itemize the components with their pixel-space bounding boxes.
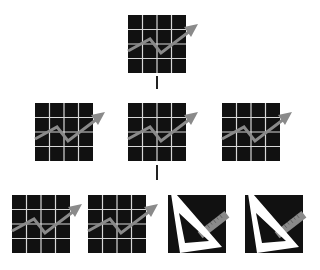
set-square-ruler-icon (168, 195, 226, 253)
node-root (128, 15, 186, 73)
growth-chart-icon (128, 15, 186, 73)
growth-chart-icon (35, 103, 93, 161)
node-leaf-1 (12, 195, 70, 253)
growth-chart-icon (88, 195, 146, 253)
connector-center-to-leaves (156, 165, 158, 180)
node-leaf-2 (88, 195, 146, 253)
growth-chart-icon (222, 103, 280, 161)
node-child-center (128, 103, 186, 161)
node-child-left (35, 103, 93, 161)
node-child-right (222, 103, 280, 161)
node-leaf-3 (168, 195, 226, 253)
growth-chart-icon (128, 103, 186, 161)
node-leaf-4 (245, 195, 303, 253)
connector-root-to-center (156, 76, 158, 89)
growth-chart-icon (12, 195, 70, 253)
set-square-ruler-icon (245, 195, 303, 253)
